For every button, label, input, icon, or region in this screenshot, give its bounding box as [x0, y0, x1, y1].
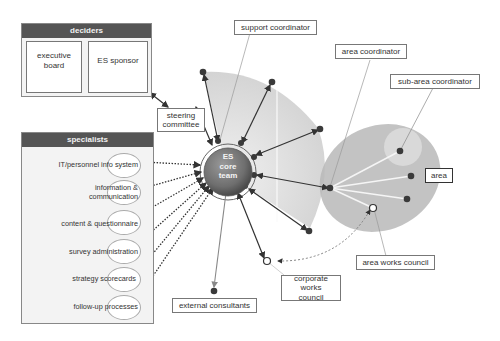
- node: [306, 228, 313, 235]
- executive-board: executive board: [26, 41, 82, 93]
- specialist-it-personnel: IT/personnel info system: [59, 161, 139, 170]
- corporate-works-council-label: corporate works council: [281, 275, 341, 301]
- area-label: area: [425, 168, 453, 183]
- deciders-panel: deciders executive board ES sponsor: [21, 23, 152, 97]
- sub-area-region: [384, 128, 422, 166]
- area-works-council-node: [370, 205, 377, 212]
- node: [327, 185, 334, 192]
- node: [200, 69, 207, 76]
- core-team-line2: core: [210, 162, 246, 172]
- area-coordinator-label: area coordinator: [335, 44, 407, 59]
- specialists-panel: specialists IT/personnel info system inf…: [21, 132, 154, 324]
- core-team-line1: ES: [210, 152, 246, 162]
- specialist-information-communication-label: information & communication: [89, 183, 138, 201]
- specialist-strategy-scorecards: strategy scorecards: [72, 275, 136, 284]
- specialist-survey-administration: survey administration: [69, 248, 138, 257]
- es-sponsor: ES sponsor: [88, 41, 148, 93]
- steering-committee-label: steering committee: [157, 108, 205, 132]
- sub-area-coordinator-label: sub-area coordinator: [390, 74, 480, 89]
- deciders-title: deciders: [22, 24, 151, 38]
- corporate-works-council-node: [264, 258, 271, 265]
- node: [408, 173, 415, 180]
- specialist-information-communication: information & communication: [78, 184, 138, 202]
- core-team-line3: team: [210, 171, 246, 181]
- specialist-follow-up-processes: follow-up processes: [74, 303, 139, 312]
- area-works-council-label: area works council: [356, 255, 435, 270]
- node: [269, 79, 276, 86]
- node: [404, 196, 411, 203]
- external-consultants-label: external consultants: [172, 298, 257, 313]
- node: [397, 148, 404, 155]
- specialist-content-questionnaire: content & questionnaire: [61, 220, 138, 229]
- core-team-label: ES core team: [210, 152, 246, 181]
- node: [211, 288, 218, 295]
- specialists-title: specialists: [22, 133, 153, 147]
- support-coordinator-label: support coordinator: [234, 20, 317, 35]
- node: [317, 126, 324, 133]
